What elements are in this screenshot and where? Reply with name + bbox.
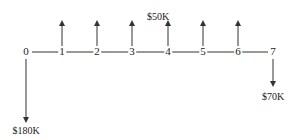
period-label-6: 6	[234, 46, 242, 57]
outflow-amount-label-7: $70K	[262, 92, 284, 102]
inflow-amount-label: $50K	[147, 12, 169, 22]
period-label-0: 0	[22, 46, 30, 57]
period-label-3: 3	[128, 46, 136, 57]
period-label-1: 1	[58, 46, 66, 57]
period-label-7: 7	[269, 46, 277, 57]
period-label-4: 4	[164, 46, 172, 57]
period-label-5: 5	[199, 46, 207, 57]
outflow-amount-label-0: $180K	[12, 126, 39, 136]
period-label-2: 2	[93, 46, 101, 57]
